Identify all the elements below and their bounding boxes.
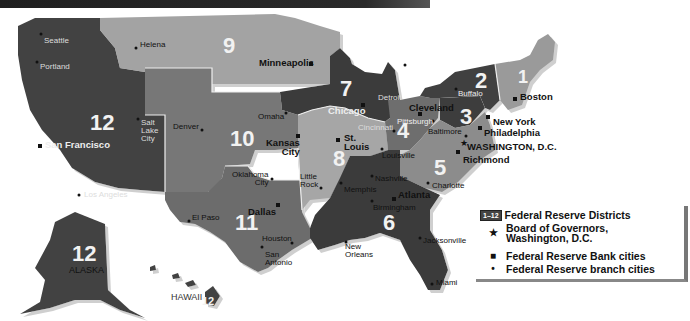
dot-icon: • [480, 264, 506, 274]
city-detroit: Detroit [378, 94, 402, 102]
square-icon: ■ [480, 251, 506, 261]
city-cleveland: Cleveland [409, 103, 454, 112]
city-nashville: Nashville [375, 175, 407, 183]
city-seattle: Seattle [44, 37, 69, 45]
district-number-7: 7 [340, 78, 352, 100]
city-portland: Portland [40, 63, 70, 71]
legend-item-branch-cities: • Federal Reserve branch cities [480, 264, 655, 274]
city-omaha: Omaha [258, 113, 284, 121]
city-new-orleans: New Orleans [345, 243, 373, 259]
city-birmingham: Birmingham [373, 204, 416, 212]
district-number-10: 10 [230, 128, 254, 150]
legend-item-board: ★ Board of Governors, Washington, D.C. [480, 223, 608, 243]
district-number-5: 5 [434, 157, 446, 179]
star-icon: ★ [480, 223, 506, 238]
city-minneapolis: Minneapolis [259, 58, 314, 67]
district-number-3: 3 [460, 106, 472, 128]
city-oklahoma-city: Oklahoma City [232, 171, 268, 187]
city-richmond: Richmond [463, 155, 509, 164]
city-baltimore: Baltimore [428, 128, 462, 136]
legend-item-bank-cities: ■ Federal Reserve Bank cities [480, 251, 646, 261]
city-san-antonio: San Antonio [265, 251, 292, 267]
city-denver: Denver [173, 123, 199, 131]
district-number-6: 6 [383, 212, 395, 234]
city-cincinnati: Cincinnati [358, 124, 393, 132]
city-salt-lake-city: Salt Lake City [141, 119, 158, 143]
district-number-12: 12 [90, 112, 114, 134]
city-charlotte: Charlotte [432, 182, 464, 190]
map-legend: 1–12 Federal Reserve Districts ★ Board o… [476, 206, 688, 282]
city-san-francisco: San Francisco [45, 140, 110, 149]
state-label-hawaii: HAWAII [171, 292, 202, 302]
district-number-12-hawaii: 12 [202, 290, 214, 312]
city-new-york: New York [493, 117, 535, 126]
state-label-alaska: ALASKA [69, 265, 104, 275]
city-pittsburgh: Pittsburgh [397, 118, 433, 126]
city-st-louis: St. Louis [344, 133, 369, 151]
city-houston: Houston [262, 235, 292, 243]
city-los-angeles: Los Angeles [84, 191, 128, 199]
city-louisville: Louisville [382, 152, 415, 160]
city-helena: Helena [140, 41, 165, 49]
district-10 [145, 68, 298, 192]
city-dallas: Dallas [248, 207, 276, 216]
city-little-rock: Little Rock [300, 173, 318, 189]
district-number-1: 1 [518, 66, 528, 88]
city-chicago: Chicago [328, 106, 365, 115]
city-boston: Boston [520, 92, 553, 101]
city-memphis: Memphis [344, 186, 376, 194]
city-philadelphia: Philadelphia [484, 128, 540, 137]
city-miami: Miami [436, 279, 457, 287]
district-number-12-alaska: 12 [72, 243, 96, 265]
city-kansas-city: Kansas City [266, 138, 300, 156]
city-buffalo: Buffalo [458, 90, 483, 98]
district-badge-icon: 1–12 [480, 210, 502, 221]
city-washington-dc: WASHINGTON, D.C. [467, 142, 557, 151]
legend-item-districts: 1–12 Federal Reserve Districts [480, 210, 631, 221]
city-jacksonville: Jacksonville [423, 237, 466, 245]
district-number-9: 9 [223, 35, 235, 57]
city-atlanta: Atlanta [398, 190, 430, 199]
city-el-paso: El Paso [192, 214, 220, 222]
